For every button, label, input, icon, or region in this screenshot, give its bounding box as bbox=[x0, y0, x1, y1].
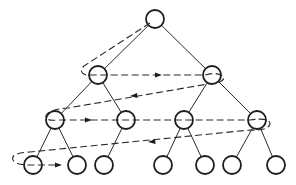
tree-canvas bbox=[0, 0, 296, 185]
tree-node-n13 bbox=[267, 156, 285, 174]
tree-edge bbox=[98, 19, 155, 75]
tree-node-n8 bbox=[68, 156, 86, 174]
arrow-right-icon bbox=[155, 73, 162, 78]
tree-nodes bbox=[24, 10, 285, 174]
tree-node-n12 bbox=[223, 156, 241, 174]
level-order-traversal-path bbox=[13, 23, 270, 168]
tree-edge bbox=[155, 19, 212, 75]
arrow-right-icon bbox=[55, 163, 62, 168]
tree-node-n0 bbox=[146, 10, 164, 28]
tree-node-n9 bbox=[95, 156, 113, 174]
tree-node-n10 bbox=[154, 156, 172, 174]
tree-diagram bbox=[0, 0, 296, 185]
arrow-right-icon bbox=[85, 118, 92, 123]
tree-node-n11 bbox=[196, 156, 214, 174]
